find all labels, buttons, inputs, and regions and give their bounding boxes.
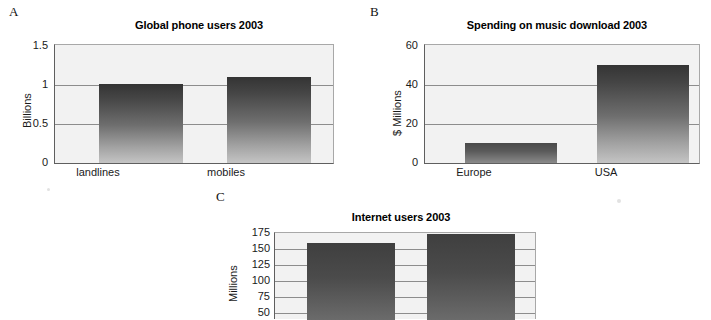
y-tick-c-150: 150 bbox=[228, 243, 270, 254]
y-tick-b-0: 0 bbox=[378, 157, 418, 168]
plot-area-b bbox=[424, 44, 700, 164]
bar-a-landlines bbox=[99, 84, 183, 163]
scan-speckle bbox=[47, 188, 50, 191]
y-axis-label-b: $ Millions bbox=[392, 90, 403, 136]
x-tick-a-mobiles: mobiles bbox=[184, 167, 268, 178]
y-axis-label-a: Billions bbox=[22, 93, 33, 128]
y-tick-a-0: 0 bbox=[8, 157, 48, 168]
bar-b-usa bbox=[597, 65, 689, 163]
chart-title-a: Global phone users 2003 bbox=[56, 19, 342, 31]
panel-letter-c: C bbox=[216, 190, 225, 203]
y-tick-a-2: 1 bbox=[8, 79, 48, 90]
bar-a-mobiles bbox=[227, 77, 311, 163]
plot-area-a bbox=[54, 44, 334, 164]
x-tick-b-europe: Europe bbox=[428, 167, 520, 178]
panel-letter-b: B bbox=[370, 5, 379, 18]
scan-speckle bbox=[617, 199, 621, 203]
bar-c-left bbox=[307, 243, 395, 320]
chart-title-b: Spending on music download 2003 bbox=[412, 19, 702, 31]
y-tick-c-50: 50 bbox=[228, 307, 270, 318]
plot-area-c bbox=[274, 232, 536, 319]
y-tick-a-3: 1.5 bbox=[8, 40, 48, 51]
y-tick-b-2: 40 bbox=[378, 79, 418, 90]
x-tick-a-landlines: landlines bbox=[56, 167, 140, 178]
y-axis-label-c: Millions bbox=[228, 265, 239, 302]
panel-letter-a: A bbox=[9, 5, 18, 18]
bar-b-europe bbox=[465, 143, 557, 163]
chart-title-c: Internet users 2003 bbox=[258, 211, 544, 223]
y-tick-b-3: 60 bbox=[378, 40, 418, 51]
x-tick-b-usa: USA bbox=[560, 167, 652, 178]
y-tick-c-175: 175 bbox=[228, 227, 270, 238]
bar-c-right bbox=[427, 234, 515, 320]
